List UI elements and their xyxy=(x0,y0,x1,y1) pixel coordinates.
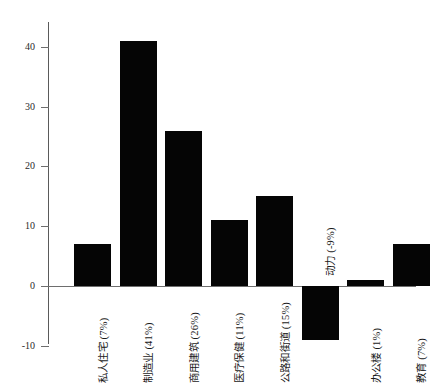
bar xyxy=(165,131,202,286)
category-label: 教育 (7%) xyxy=(416,338,427,383)
bars-layer xyxy=(48,22,416,344)
category-label: 动力 (-9%) xyxy=(325,227,336,276)
category-label: 制造业 (41%) xyxy=(143,322,154,383)
category-label: 商用建筑 (26%) xyxy=(189,312,200,383)
bar xyxy=(347,280,384,286)
category-label: 医疗保健 (11%) xyxy=(234,313,245,383)
y-tick-mark xyxy=(41,346,49,347)
bar xyxy=(74,244,111,286)
bar-chart: 403020100-10 私人住宅 (7%)制造业 (41%)商用建筑 (26%… xyxy=(0,0,430,388)
bar xyxy=(302,286,339,340)
bar xyxy=(211,220,248,286)
bar xyxy=(120,41,157,286)
category-label: 公路和街道 (15%) xyxy=(280,302,291,383)
bar xyxy=(256,196,293,286)
category-label: 办公楼 (1%) xyxy=(371,328,382,383)
category-label: 私人住宅 (7%) xyxy=(98,318,109,383)
bar xyxy=(393,244,430,286)
